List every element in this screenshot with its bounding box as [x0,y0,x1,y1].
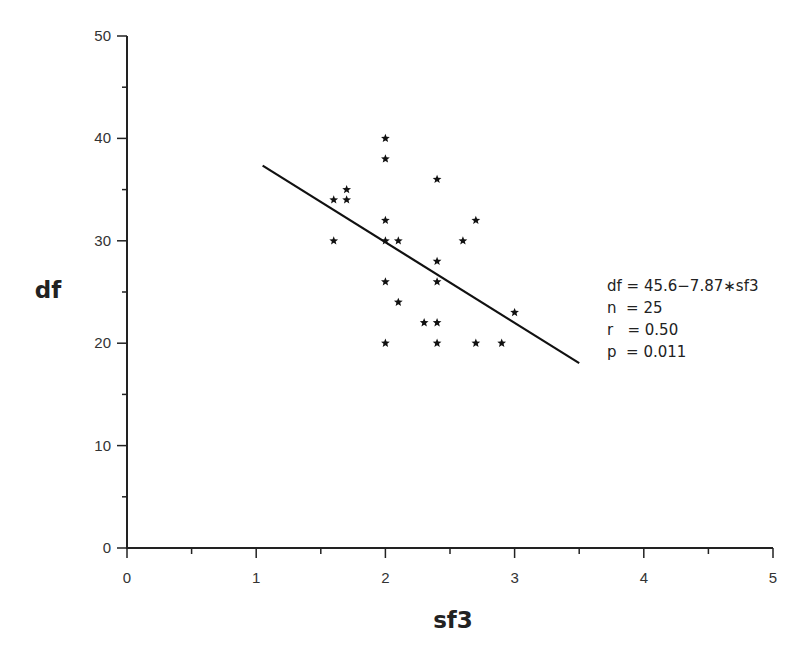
x-tick-label: 0 [123,569,131,586]
data-point-star [471,339,480,347]
y-tick-label: 50 [94,27,111,44]
x-tick-label: 5 [769,569,777,586]
x-tick-label: 2 [381,569,389,586]
y-tick-label: 30 [94,232,111,249]
data-point-star [459,236,468,244]
data-point-star [433,257,442,265]
data-point-star [381,134,390,142]
data-point-star [381,216,390,224]
data-point-star [381,339,390,347]
regression-line [263,166,580,363]
y-tick-label: 20 [94,334,111,351]
data-point-star [510,308,519,316]
x-tick-label: 1 [252,569,260,586]
y-tick-label: 40 [94,129,111,146]
p-text: p = 0.011 [607,341,758,363]
data-point-star [433,318,442,326]
data-point-star [497,339,506,347]
x-tick-label: 3 [510,569,518,586]
x-axis-title: sf3 [433,607,473,633]
r-text: r = 0.50 [607,319,758,341]
y-axis-title: df [35,277,62,303]
data-point-star [342,195,351,203]
x-tick-label: 4 [640,569,648,586]
data-point-star [433,175,442,183]
data-point-star [433,339,442,347]
n-text: n = 25 [607,297,758,319]
data-point-star [420,318,429,326]
data-point-star [381,154,390,162]
data-point-star [381,277,390,285]
data-point-star [394,298,403,306]
data-point-star [329,195,338,203]
equation-text: df = 45.6−7.87∗sf3 [607,275,758,297]
data-point-star [329,236,338,244]
y-tick-label: 0 [103,539,111,556]
data-point-star [471,216,480,224]
data-point-star [433,277,442,285]
data-point-star [394,236,403,244]
data-point-star [342,185,351,193]
regression-stats: df = 45.6−7.87∗sf3 n = 25 r = 0.50 p = 0… [607,275,758,363]
y-tick-label: 10 [94,437,111,454]
